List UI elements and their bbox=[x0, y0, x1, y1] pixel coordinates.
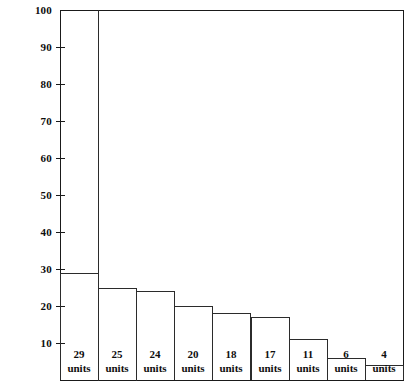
bar-value-text: 20 bbox=[174, 348, 212, 362]
bar-value-text: 4 bbox=[365, 348, 403, 362]
bar-data-label: 17units bbox=[251, 348, 289, 376]
bar-unit-text: units bbox=[60, 362, 98, 376]
bar-value-text: 29 bbox=[60, 348, 98, 362]
bar-unit-text: units bbox=[136, 362, 174, 376]
bar-data-label: 6units bbox=[327, 348, 365, 376]
first-bar-extended-edge bbox=[98, 10, 99, 273]
bar-data-label: 24units bbox=[136, 348, 174, 376]
bar-data-label: 18units bbox=[212, 348, 250, 376]
bar-chart: 100908070605040302010 29units25units24un… bbox=[0, 0, 410, 384]
bar-unit-text: units bbox=[327, 362, 365, 376]
bar-unit-text: units bbox=[289, 362, 327, 376]
bar-value-text: 18 bbox=[212, 348, 250, 362]
bar-data-label: 25units bbox=[98, 348, 136, 376]
bar-value-text: 24 bbox=[136, 348, 174, 362]
bar-value-text: 11 bbox=[289, 348, 327, 362]
bar-data-label: 11units bbox=[289, 348, 327, 376]
bar-unit-text: units bbox=[251, 362, 289, 376]
bar-unit-text: units bbox=[174, 362, 212, 376]
bar-data-label: 29units bbox=[60, 348, 98, 376]
bar-unit-text: units bbox=[212, 362, 250, 376]
bar-value-text: 6 bbox=[327, 348, 365, 362]
bars-layer: 29units25units24units20units18units17uni… bbox=[0, 0, 410, 384]
bar-data-label: 20units bbox=[174, 348, 212, 376]
bar-unit-text: units bbox=[98, 362, 136, 376]
bar-data-label: 4units bbox=[365, 348, 403, 376]
bar-unit-text: units bbox=[365, 362, 403, 376]
bar-value-text: 17 bbox=[251, 348, 289, 362]
bar-value-text: 25 bbox=[98, 348, 136, 362]
